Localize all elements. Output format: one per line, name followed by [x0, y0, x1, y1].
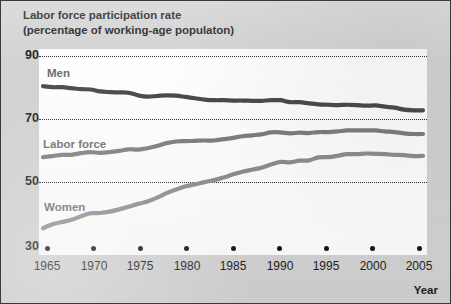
x-tick-label-1970: 1970 — [81, 259, 108, 273]
y-tick-label-70: 70 — [5, 111, 39, 125]
series-label-men: Men — [47, 67, 70, 79]
x-tick-dot-1970 — [91, 246, 96, 251]
x-tick-label-1990: 1990 — [267, 259, 294, 273]
men-line — [43, 86, 423, 110]
x-tick-dot-1975 — [138, 246, 143, 251]
chart-figure: Labor force participation rate (percenta… — [0, 0, 451, 304]
x-tick-dot-1990 — [277, 246, 282, 251]
x-tick-label-1985: 1985 — [220, 259, 247, 273]
y-tick-label-50: 50 — [5, 174, 39, 188]
chart-title: Labor force participation rate (percenta… — [23, 8, 234, 37]
y-tick-label-90: 90 — [5, 48, 39, 62]
series-label-women: Women — [44, 201, 85, 213]
x-tick-label-1965: 1965 — [34, 259, 61, 273]
x-tick-dot-2000 — [370, 246, 375, 251]
series-label-labor-force: Labor force — [43, 138, 106, 150]
x-tick-label-1995: 1995 — [313, 259, 340, 273]
plot-area: Men Labor force Women — [39, 49, 427, 255]
x-tick-dot-1965 — [45, 246, 50, 251]
series-lines — [39, 49, 427, 255]
chart-title-line-1: Labor force participation rate — [23, 8, 234, 23]
x-axis-title: Year — [414, 284, 438, 296]
x-tick-label-1975: 1975 — [127, 259, 154, 273]
x-tick-dot-1995 — [324, 246, 329, 251]
chart-title-line-2: (percentage of working-age populaton) — [23, 23, 234, 38]
x-tick-dot-2005 — [417, 246, 422, 251]
x-tick-label-1980: 1980 — [174, 259, 201, 273]
women-line — [43, 153, 423, 228]
y-tick-label-30: 30 — [5, 239, 39, 253]
x-tick-dot-1980 — [184, 246, 189, 251]
x-tick-label-2005: 2005 — [406, 259, 433, 273]
x-tick-dot-1985 — [231, 246, 236, 251]
x-tick-label-2000: 2000 — [360, 259, 387, 273]
